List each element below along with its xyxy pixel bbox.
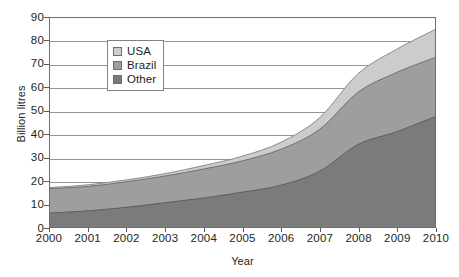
- legend-item-brazil: Brazil: [113, 58, 156, 72]
- legend-label-brazil: Brazil: [127, 59, 156, 72]
- x-tick-label-2010: 2010: [412, 232, 459, 245]
- x-axis-tick-labels: 2000200120022003200420052006200720082009…: [49, 232, 436, 250]
- legend-swatch-other: [113, 75, 122, 84]
- chart-legend: USA Brazil Other: [107, 40, 164, 91]
- legend-item-other: Other: [113, 72, 156, 86]
- legend-label-other: Other: [127, 73, 156, 86]
- legend-item-usa: USA: [113, 44, 156, 58]
- stacked-area-chart: Billion litres 0102030405060708090 USA: [0, 0, 459, 277]
- y-axis-tick-marks: [0, 17, 49, 228]
- x-axis-title: Year: [49, 255, 436, 267]
- legend-swatch-usa: [113, 47, 122, 56]
- legend-swatch-brazil: [113, 61, 122, 70]
- plot-area: USA Brazil Other: [49, 17, 436, 228]
- legend-label-usa: USA: [127, 45, 151, 58]
